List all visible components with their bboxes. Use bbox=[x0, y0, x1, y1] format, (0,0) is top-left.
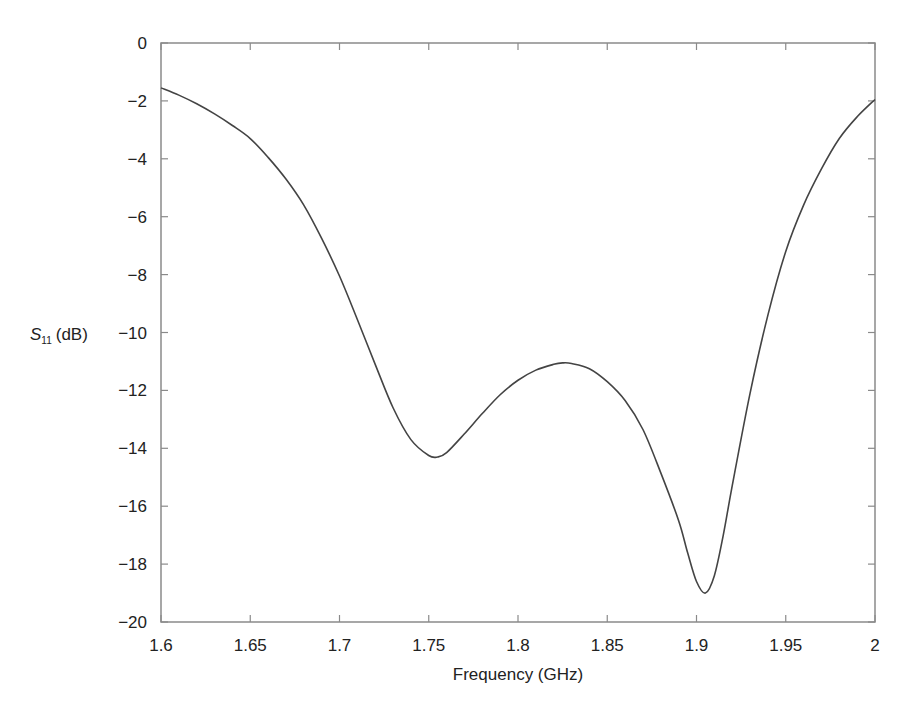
y-axis: 0−2−4−6−8−10−12−14−16−18−20 bbox=[118, 34, 875, 632]
y-tick-label: −4 bbox=[128, 150, 147, 169]
y-tick-label: −2 bbox=[128, 92, 147, 111]
x-tick-label: 1.85 bbox=[591, 636, 624, 655]
x-tick-label: 1.7 bbox=[328, 636, 352, 655]
y-tick-label: −18 bbox=[118, 555, 147, 574]
x-axis: 1.61.651.71.751.81.851.91.952 bbox=[149, 43, 880, 655]
plot-area bbox=[161, 43, 875, 622]
y-tick-label: −20 bbox=[118, 613, 147, 632]
x-tick-label: 1.9 bbox=[685, 636, 709, 655]
y-tick-label: 0 bbox=[138, 34, 147, 53]
s11-curve bbox=[161, 88, 875, 593]
y-tick-label: −10 bbox=[118, 324, 147, 343]
y-axis-title-symbol: S bbox=[30, 325, 42, 344]
x-axis-title: Frequency (GHz) bbox=[453, 665, 583, 684]
y-tick-label: −16 bbox=[118, 497, 147, 516]
y-tick-label: −8 bbox=[128, 266, 147, 285]
x-tick-label: 1.8 bbox=[506, 636, 530, 655]
x-tick-label: 2 bbox=[870, 636, 879, 655]
y-tick-label: −12 bbox=[118, 381, 147, 400]
x-tick-label: 1.65 bbox=[234, 636, 267, 655]
y-axis-title-unit: (dB) bbox=[56, 325, 88, 344]
y-axis-title-subscript: 11 bbox=[41, 335, 52, 346]
chart: 1.61.651.71.751.81.851.91.952 0−2−4−6−8−… bbox=[0, 0, 920, 718]
x-tick-label: 1.75 bbox=[412, 636, 445, 655]
x-tick-label: 1.6 bbox=[149, 636, 173, 655]
y-tick-label: −14 bbox=[118, 439, 147, 458]
x-tick-label: 1.95 bbox=[769, 636, 802, 655]
y-tick-label: −6 bbox=[128, 208, 147, 227]
y-axis-title: S11(dB) bbox=[30, 325, 88, 346]
